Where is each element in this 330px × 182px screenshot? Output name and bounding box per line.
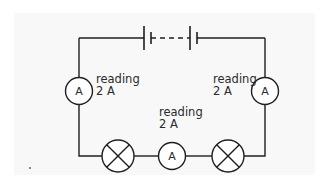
ammeter-bottom-icon: A [159, 143, 186, 170]
circuit-diagram: A A A [0, 0, 330, 182]
ammeter-right-label-line2: 2 A [213, 85, 257, 97]
svg-text:A: A [168, 150, 176, 163]
svg-text:A: A [75, 85, 83, 98]
wire-left-lower [79, 105, 102, 156]
svg-text:A: A [261, 85, 269, 98]
wire-right-lower [244, 105, 265, 156]
ammeter-bottom-label: reading 2 A [159, 106, 203, 130]
ammeter-left-icon: A [66, 78, 93, 105]
ammeter-right-label: reading 2 A [213, 73, 257, 97]
lamp-right-icon [212, 140, 244, 172]
stray-dot [29, 167, 31, 169]
ammeter-bottom-label-line2: 2 A [159, 118, 203, 130]
ammeter-left-label-line2: 2 A [96, 85, 140, 97]
battery-icon [144, 26, 197, 50]
ammeter-left-label: reading 2 A [96, 73, 140, 97]
lamp-left-icon [102, 140, 134, 172]
